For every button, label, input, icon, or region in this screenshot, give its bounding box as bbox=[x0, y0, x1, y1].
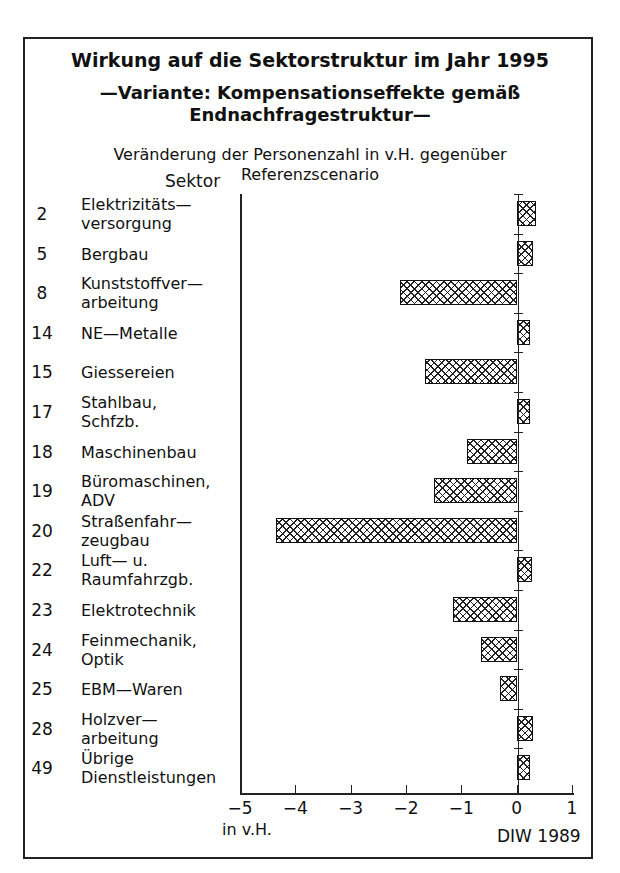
x-axis-tick bbox=[295, 785, 296, 794]
sector-row: 24Feinmechanik, Optik bbox=[0, 630, 620, 670]
sector-row: 18Maschinenbau bbox=[0, 432, 620, 472]
x-axis-tick-label: −4 bbox=[275, 798, 315, 818]
data-bar bbox=[425, 359, 516, 384]
sector-label: Giessereien bbox=[81, 363, 175, 382]
data-bar bbox=[400, 280, 516, 305]
x-axis-tick-label: 0 bbox=[497, 798, 537, 818]
sector-code: 17 bbox=[20, 402, 64, 422]
sector-label: Elektrizitäts— versorgung bbox=[81, 195, 192, 233]
data-bar bbox=[517, 716, 534, 741]
sector-code: 8 bbox=[20, 283, 64, 303]
x-axis-tick bbox=[351, 785, 352, 794]
zero-line bbox=[518, 194, 519, 794]
data-bar bbox=[434, 478, 517, 503]
data-bar bbox=[276, 518, 517, 543]
chart-title: Wirkung auf die Sektorstruktur im Jahr 1… bbox=[0, 49, 620, 71]
chart-subtitle: Veränderung der Personenzahl in v.H. geg… bbox=[0, 145, 620, 164]
y-axis-line bbox=[240, 194, 242, 794]
sector-label: Luft— u. Raumfahrzgb. bbox=[81, 551, 193, 589]
sector-code: 20 bbox=[20, 521, 64, 541]
x-axis-tick bbox=[461, 785, 462, 794]
x-axis-unit-label: in v.H. bbox=[222, 820, 272, 839]
sector-code: 14 bbox=[20, 323, 64, 343]
data-bar bbox=[517, 201, 536, 226]
data-bar bbox=[467, 439, 517, 464]
data-bar bbox=[481, 637, 517, 662]
sector-code: 22 bbox=[20, 560, 64, 580]
sector-label: Maschinenbau bbox=[81, 442, 197, 461]
sector-row: 8Kunststoffver— arbeitung bbox=[0, 273, 620, 313]
x-axis-tick-label: 1 bbox=[552, 798, 592, 818]
sector-label: Elektrotechnik bbox=[81, 601, 196, 620]
sector-row: 15Giessereien bbox=[0, 352, 620, 392]
chart-title-variant-cont: Endnachfragestruktur— bbox=[0, 104, 620, 125]
chart-subtitle-cont: Referenzscenario bbox=[0, 165, 620, 184]
x-axis-tick-label: −2 bbox=[386, 798, 426, 818]
sector-code: 18 bbox=[20, 442, 64, 462]
sector-code: 24 bbox=[20, 640, 64, 660]
y-axis-title: Sektor bbox=[165, 171, 220, 191]
x-axis-tick-label: −1 bbox=[441, 798, 481, 818]
x-axis-tick bbox=[240, 785, 241, 794]
data-bar bbox=[517, 241, 534, 266]
data-bar bbox=[500, 676, 517, 701]
chart-title-variant: —Variante: Kompensationseffekte gemäß bbox=[0, 82, 620, 103]
sector-row: 25EBM—Waren bbox=[0, 669, 620, 709]
sector-label: EBM—Waren bbox=[81, 680, 183, 699]
sector-code: 23 bbox=[20, 600, 64, 620]
source-credit: DIW 1989 bbox=[497, 826, 581, 846]
x-axis-tick-label: −3 bbox=[331, 798, 371, 818]
sector-code: 5 bbox=[20, 244, 64, 264]
sector-code: 49 bbox=[20, 758, 64, 778]
sector-code: 15 bbox=[20, 362, 64, 382]
sector-row: 19Büromaschinen, ADV bbox=[0, 471, 620, 511]
sector-label: Straßenfahr— zeugbau bbox=[81, 512, 192, 550]
sector-code: 19 bbox=[20, 481, 64, 501]
x-axis-tick bbox=[406, 785, 407, 794]
x-axis-tick bbox=[517, 785, 518, 794]
sector-label: Bergbau bbox=[81, 244, 148, 263]
data-bar bbox=[453, 597, 517, 622]
sector-label: Büromaschinen, ADV bbox=[81, 472, 210, 510]
sector-label: Stahlbau, Schfzb. bbox=[81, 393, 157, 431]
sector-code: 2 bbox=[20, 204, 64, 224]
sector-code: 25 bbox=[20, 679, 64, 699]
x-axis-tick bbox=[572, 785, 573, 794]
sector-label: Übrige Dienstleistungen bbox=[81, 749, 216, 787]
x-axis-tick-label: −5 bbox=[220, 798, 260, 818]
sector-row: 23Elektrotechnik bbox=[0, 590, 620, 630]
sector-code: 28 bbox=[20, 719, 64, 739]
sector-label: Kunststoffver— arbeitung bbox=[81, 274, 203, 312]
x-axis-line bbox=[240, 793, 574, 795]
sector-label: NE—Metalle bbox=[81, 323, 178, 342]
sector-label: Feinmechanik, Optik bbox=[81, 631, 197, 669]
sector-label: Holzver— arbeitung bbox=[81, 710, 159, 748]
